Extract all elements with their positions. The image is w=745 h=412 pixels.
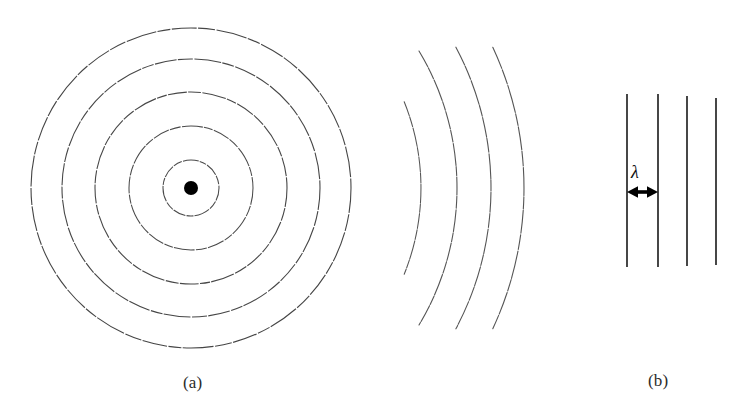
wavefront-figure: (a) (b) λ	[0, 0, 745, 412]
panel-a-caption: (a)	[183, 373, 202, 393]
figure-background	[0, 0, 745, 412]
figure-canvas	[0, 0, 745, 412]
wavelength-lambda-label: λ	[631, 163, 639, 181]
panel-b-caption: (b)	[648, 371, 668, 391]
point-source-dot	[184, 181, 198, 195]
